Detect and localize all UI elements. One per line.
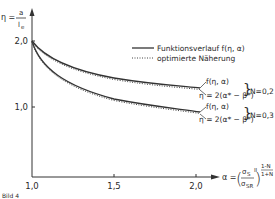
y-tick-1: 1,0 <box>14 102 28 112</box>
svg-text:1-N: 1-N <box>261 163 271 169</box>
x-axis-arrow-icon <box>211 175 220 180</box>
svg-text:e: e <box>21 24 25 30</box>
svg-text:SR: SR <box>246 183 253 189</box>
figure-caption: Bild 4 <box>2 192 19 199</box>
svg-text:f(η, α): f(η, α) <box>206 102 229 111</box>
axes <box>30 8 221 180</box>
y-tick-2: 2,0 <box>14 36 28 46</box>
x-axis-label: α = ( σ S σ SR II ) 1-N 1+N <box>222 163 273 189</box>
chart: 2,0 1,0 1,0 1,5 2,0 η = a l e Funktionsv… <box>0 0 275 199</box>
svg-text:N=0,2: N=0,2 <box>250 87 274 96</box>
legend-solid-label: Funktionsverlauf f(η, α) <box>157 44 245 53</box>
y-axis-arrow-icon <box>30 8 35 16</box>
svg-text:S: S <box>247 171 251 177</box>
svg-text:f(η, α): f(η, α) <box>206 77 229 86</box>
legend-dotted-label: optimierte Näherung <box>157 54 236 63</box>
annotation-n03: f(η, α) η = 2(α* − β*) } N=0,3 <box>199 102 274 124</box>
y-axis-label: η = a l e <box>1 9 26 30</box>
svg-text:α =: α = <box>222 173 237 182</box>
annotation-n02: f(η, α) η = 2(α* − β*) } N=0,2 <box>199 77 274 100</box>
legend: Funktionsverlauf f(η, α) optimierte Nähe… <box>132 44 245 63</box>
x-tick-2: 2,0 <box>189 181 203 191</box>
svg-text:a: a <box>19 9 23 17</box>
x-tick-15: 1,5 <box>107 181 121 191</box>
svg-text:η =: η = <box>1 13 15 22</box>
svg-text:1+N: 1+N <box>261 171 273 177</box>
x-tick-1: 1,0 <box>25 181 39 191</box>
svg-text:l: l <box>18 21 20 29</box>
svg-text:N=0,3: N=0,3 <box>250 111 274 120</box>
